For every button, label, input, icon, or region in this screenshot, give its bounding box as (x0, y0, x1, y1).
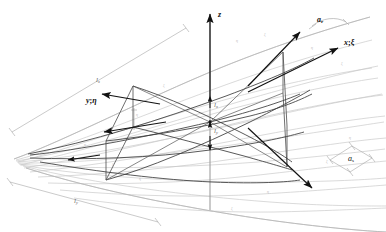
dimension-label-ly-bottom: ly (74, 198, 78, 205)
dimension-label-lx-left: lx (96, 77, 100, 84)
section-label-left-plane: η (136, 113, 138, 117)
axis-label-x: x;ξ (344, 39, 354, 47)
vector-label-a-r: ar (317, 16, 323, 25)
mesh-tick-label: ξ (231, 207, 233, 211)
vector-arrows (68, 32, 338, 188)
mesh-tick-label: η (236, 39, 238, 43)
axis-label-y: y;η (86, 97, 97, 105)
section-curves (28, 58, 314, 183)
origin-point (209, 121, 212, 124)
mesh-tick-label: η (311, 46, 313, 50)
axis-label-z: z (218, 11, 221, 19)
mesh-tick-label: η (349, 136, 351, 140)
mesh-tick-label: η (84, 143, 86, 147)
mesh-tick-label: ξ (326, 160, 328, 164)
mesh-tick-label: ξ (163, 84, 165, 88)
diagram-canvas: z x;ξ y;η ar lx ly lx ly as η ξ η ξ η ξ … (0, 0, 386, 232)
mesh-tick-label: ξ (341, 62, 343, 66)
mesh-tick-label: ξ (112, 163, 114, 167)
dimension-label-lx-center: lx (214, 102, 218, 109)
dimension-label-as-right: as (348, 155, 354, 164)
mesh-tick-label: ξ (264, 33, 266, 37)
diagram-vector-graphics (0, 0, 386, 232)
mesh-tick-label: η (139, 177, 141, 181)
mesh-tick-label: η (267, 190, 269, 194)
dimension-label-ly-center: ly (214, 128, 218, 135)
